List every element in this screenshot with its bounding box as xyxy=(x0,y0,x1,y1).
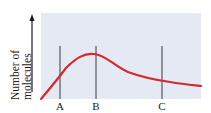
marker-label-c: C xyxy=(158,100,165,112)
y-axis-label: Number of molecules xyxy=(10,50,34,100)
marker-label-a: A xyxy=(56,100,64,112)
marker-label-b: B xyxy=(92,100,99,112)
y-axis-label-line-2: molecules xyxy=(22,50,34,100)
distribution-curve xyxy=(41,54,201,99)
